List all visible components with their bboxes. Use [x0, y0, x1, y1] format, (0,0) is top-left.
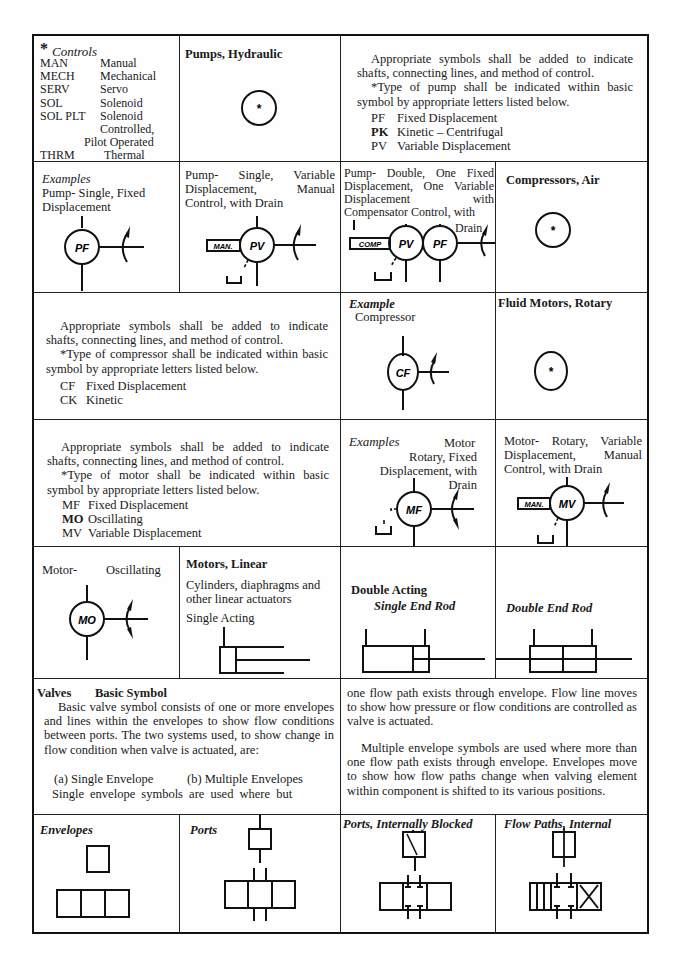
double-acting-cell: Double Acting Single End Rod: [341, 547, 496, 679]
motor-oscillating-label-right: Oscillating: [106, 563, 161, 577]
pump-example-2-label: Pump- Single, Variable Displacement, Man…: [185, 168, 335, 211]
pumps-notes: Appropriate symbols shall be added to in…: [357, 52, 633, 109]
pump-example-1-label: Pump- Single, Fixed Displacement: [42, 186, 170, 214]
controls-item: THRMThermal: [40, 149, 156, 162]
envelopes-cell: Envelopes: [32, 815, 180, 934]
option-single-envelope: (a) Single Envelope: [54, 772, 153, 786]
motors-linear-subtitle: Cylinders, diaphragms and other linear a…: [186, 578, 336, 606]
valves-para-2b: one flow path exists through envelope. F…: [347, 686, 637, 729]
pump-example-2-cell: Pump- Single, Variable Displacement, Man…: [180, 162, 341, 293]
motor-code-item: MFFixed Displacement: [62, 498, 202, 512]
motor-codes: MFFixed Displacement MOOscillating MVVar…: [62, 498, 202, 540]
envelopes-symbol-icon: [32, 840, 180, 930]
compressor-example-cell: Example Compressor CF: [341, 293, 496, 420]
motor-oscillating-cell: Motor- Oscillating MO: [32, 547, 180, 679]
asterisk-icon: *: [40, 42, 48, 56]
compressor-notes: Appropriate symbols shall be added to in…: [46, 319, 328, 376]
pump-example-1-cell: Examples Pump- Single, Fixed Displacemen…: [32, 162, 180, 293]
pump-code-item: PKKinetic – Centrifugal: [371, 125, 511, 139]
svg-text:MV: MV: [559, 498, 577, 510]
single-acting-label: Single Acting: [186, 611, 254, 625]
svg-text:PF: PF: [75, 242, 89, 254]
motor-notes-cell: Appropriate symbols shall be added to in…: [32, 420, 341, 547]
pumps-title-cell: Pumps, Hydraulic *: [180, 34, 341, 162]
pump-basic-symbol-icon: *: [239, 88, 279, 128]
double-acting-label: Double Acting: [351, 583, 427, 597]
motor-example-2-cell: Motor- Rotary, Variable Displacement, Ma…: [496, 420, 649, 547]
single-end-rod-label: Single End Rod: [374, 599, 455, 613]
pumps-notes-cell: Appropriate symbols shall be added to in…: [341, 34, 649, 162]
compressors-title: Compressors, Air: [506, 173, 600, 187]
symbol-reference-page: * Controls MANManual MECHMechanical SERV…: [0, 0, 679, 957]
motor-code-item: MVVariable Displacement: [62, 526, 202, 540]
valves-basic-cell: Valves Basic Symbol Basic valve symbol c…: [32, 679, 341, 815]
fluid-motors-title: Fluid Motors, Rotary: [498, 296, 612, 310]
controls-list: MANManual MECHMechanical SERVServo SOLSo…: [40, 57, 156, 162]
flow-paths-internal-icon: [496, 815, 649, 934]
motor-oscillating-label-left: Motor-: [42, 563, 77, 577]
svg-text:MAN.: MAN.: [524, 500, 543, 509]
svg-text:*: *: [257, 102, 262, 116]
ports-blocked-cell: Ports, Internally Blocked: [341, 815, 496, 934]
compressors-title-cell: Compressors, Air *: [496, 162, 649, 293]
pumps-codes: PFFixed Displacement PKKinetic – Centrif…: [371, 111, 511, 153]
ports-internally-blocked-icon: [341, 815, 496, 934]
pumps-title: Pumps, Hydraulic: [185, 47, 282, 61]
compressor-code-item: CFFixed Displacement: [60, 379, 186, 393]
svg-text:*: *: [549, 365, 554, 379]
compressor-code-item: CKKinetic: [60, 393, 186, 407]
controls-cell: * Controls MANManual MECHMechanical SERV…: [32, 34, 180, 162]
motor-basic-symbol-icon: *: [531, 349, 571, 393]
double-end-rod-cell: Double End Rod: [496, 547, 649, 679]
cylinder-double-end-rod-icon: [496, 629, 649, 679]
motor-code-item: MOOscillating: [62, 512, 202, 526]
cylinder-single-end-rod-icon: [341, 629, 496, 679]
svg-text:PF: PF: [433, 238, 447, 250]
ports-cell: Ports: [180, 815, 341, 934]
motor-fixed-drain-icon: MF: [341, 478, 496, 547]
motor-example-2-label: Motor- Rotary, Variable Displacement, Ma…: [504, 434, 642, 477]
pump-example-3-cell: Pump- Double, One Fixed Displacement, On…: [341, 162, 496, 293]
compressor-codes: CFFixed Displacement CKKinetic: [60, 379, 186, 407]
svg-text:PV: PV: [399, 238, 415, 250]
motor-notes: Appropriate symbols shall be added to in…: [47, 440, 329, 497]
motors-linear-cell: Motors, Linear Cylinders, diaphragms and…: [180, 547, 341, 679]
pump-fixed-displacement-icon: PF: [32, 216, 180, 293]
option-multiple-envelopes: (b) Multiple Envelopes: [187, 772, 303, 786]
svg-text:MF: MF: [406, 504, 422, 516]
svg-text:PV: PV: [250, 240, 266, 252]
compressor-basic-symbol-icon: *: [533, 210, 573, 250]
motors-linear-title: Motors, Linear: [186, 557, 267, 571]
svg-text:*: *: [551, 224, 556, 238]
compressor-fixed-displacement-icon: CF: [341, 336, 496, 416]
valves-subtitle: Basic Symbol: [95, 686, 167, 700]
svg-text:COMP: COMP: [359, 240, 382, 249]
pump-variable-manual-drain-icon: MAN. PV: [180, 216, 341, 293]
motor-oscillating-icon: MO: [32, 585, 180, 675]
cylinder-single-acting-icon: [180, 627, 341, 679]
double-end-rod-label: Double End Rod: [506, 601, 592, 615]
examples-heading: Examples: [42, 172, 91, 186]
valves-title: Valves: [37, 686, 71, 700]
motor-example-1-cell: Examples Motor Rotary, Fixed Displacemen…: [341, 420, 496, 547]
pump-code-item: PVVariable Displacement: [371, 139, 511, 153]
pump-code-item: PFFixed Displacement: [371, 111, 511, 125]
envelopes-label: Envelopes: [40, 823, 93, 837]
examples-heading: Examples: [349, 435, 400, 449]
motor-variable-manual-drain-icon: MAN. MV: [496, 477, 649, 547]
valves-para-2a: Single envelope symbols are used where b…: [52, 787, 334, 801]
valves-continued-cell: one flow path exists through envelope. F…: [341, 679, 649, 815]
motor-example-tail: Motor: [444, 436, 475, 450]
flow-paths-cell: Flow Paths, Internal: [496, 815, 649, 934]
pump-example-3-label: Pump- Double, One Fixed Displacement, On…: [344, 167, 494, 219]
svg-text:CF: CF: [396, 367, 411, 379]
compressor-example-label: Compressor: [355, 310, 415, 324]
ports-symbol-icon: [180, 815, 341, 934]
valves-para-1: Basic valve symbol consists of one or mo…: [44, 700, 334, 757]
compressor-notes-cell: Appropriate symbols shall be added to in…: [32, 293, 341, 420]
svg-text:MAN.: MAN.: [213, 242, 232, 251]
example-heading: Example: [349, 297, 395, 311]
pump-double-compensator-icon: COMP PV PF: [341, 220, 496, 293]
svg-text:MO: MO: [78, 614, 96, 626]
valves-para-3: Multiple envelope symbols are used where…: [347, 741, 637, 798]
